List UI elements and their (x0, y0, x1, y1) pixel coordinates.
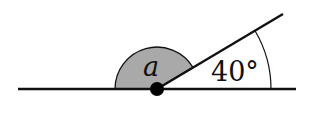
angle-40-label: 40° (211, 56, 259, 87)
vertex-point (150, 82, 164, 96)
angle-a-label: a (143, 51, 159, 82)
angle-diagram: a 40° (0, 0, 311, 118)
